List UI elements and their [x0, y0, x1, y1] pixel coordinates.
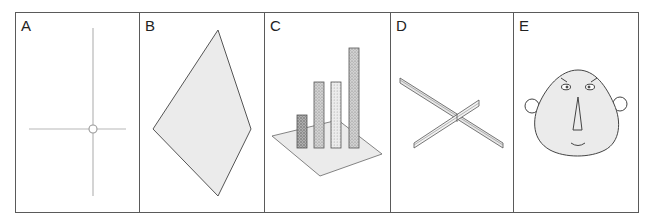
figure-artwork [0, 0, 657, 223]
kite-shape-icon [153, 30, 251, 196]
crosshair-icon [29, 28, 126, 196]
cartoon-face-icon [525, 70, 627, 156]
bar-chart-icon [272, 48, 382, 176]
crossed-blades-icon [400, 78, 503, 148]
